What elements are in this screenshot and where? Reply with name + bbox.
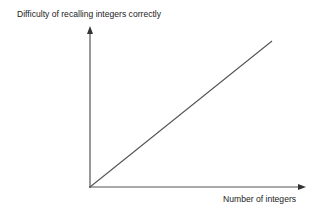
y-axis-arrow-icon	[87, 26, 93, 34]
y-axis	[87, 26, 93, 188]
x-axis	[89, 184, 306, 190]
trend-line	[90, 41, 272, 187]
chart-canvas	[0, 0, 319, 211]
x-axis-arrow-icon	[298, 184, 306, 190]
